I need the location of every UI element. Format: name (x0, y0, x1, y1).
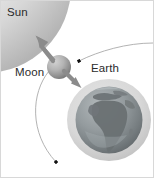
label-earth: Earth (91, 62, 119, 75)
moon-to-earth-arrow (64, 71, 82, 88)
earth-body (67, 79, 151, 161)
label-moon: Moon (15, 66, 44, 79)
astronomy-diagram: Sun Moon Earth (0, 0, 154, 178)
diagram-canvas (1, 1, 154, 178)
label-sun: Sun (7, 6, 28, 19)
